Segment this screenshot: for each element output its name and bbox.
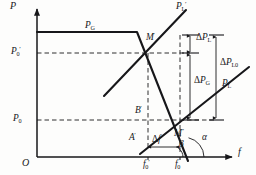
delta-label-dpl0: ΔPL0 xyxy=(220,58,238,67)
point-label-mprime-prime: ′ xyxy=(153,31,154,39)
curve-label-plprime-prime: ′ xyxy=(185,0,186,8)
x-tick-f0: f0 xyxy=(175,160,181,169)
point-label-bprime-prime: ′ xyxy=(140,104,141,112)
x-tick-f0prime-prime: ′ xyxy=(148,158,149,166)
beta-arc xyxy=(179,148,183,157)
delta-label-dpg-sub: G xyxy=(205,79,209,86)
x-axis-label: f xyxy=(238,147,241,157)
pg-path xyxy=(37,32,188,161)
point-label-aprime: A′ xyxy=(129,133,136,142)
point-label-bprime: B′ xyxy=(135,106,142,115)
x-tick-f0prime: f0′ xyxy=(143,160,150,169)
point-label-aprime-prime: ′ xyxy=(134,131,135,139)
y-tick-p0prime: P0′ xyxy=(11,47,21,56)
pg-curve xyxy=(37,32,188,161)
delta-label-dpg: ΔPG xyxy=(194,76,210,85)
curve-label-pg-sub: G xyxy=(90,24,94,31)
angle-label-alpha: α xyxy=(202,133,207,142)
point-label-mdprime-prime: ″ xyxy=(181,127,184,135)
delta-label-dpl: ΔPL xyxy=(196,33,211,42)
delta-label-df-base: f xyxy=(158,134,161,144)
point-label-mdprime: M″ xyxy=(174,129,185,138)
curve-label-pl: PL xyxy=(222,79,231,88)
diagram-svg xyxy=(0,0,256,175)
x-tick-f0-sub: 0 xyxy=(177,163,180,170)
y-tick-p0-sub: 0 xyxy=(18,117,21,124)
delta-label-dpl0-sub: L0 xyxy=(231,61,238,68)
delta-label-dpl-sub: L xyxy=(207,36,211,43)
y-axis-label: P xyxy=(10,1,16,11)
point-label-mprime: M′ xyxy=(146,33,155,42)
curve-label-pg: PG xyxy=(85,21,95,30)
angle-label-beta: β xyxy=(179,140,184,149)
y-tick-p0prime-prime: ′ xyxy=(19,45,20,53)
figure-canvas: P f O P0′ P0 f0′ f0 PG PL′ PL M′ B′ A′ M… xyxy=(0,0,256,175)
delta-label-df: Δf xyxy=(152,135,160,144)
curve-label-pl-sub: L xyxy=(227,82,231,89)
y-tick-p0: P0 xyxy=(13,114,22,123)
origin-label: O xyxy=(22,158,29,168)
curve-label-plprime: PL′ xyxy=(176,2,187,11)
